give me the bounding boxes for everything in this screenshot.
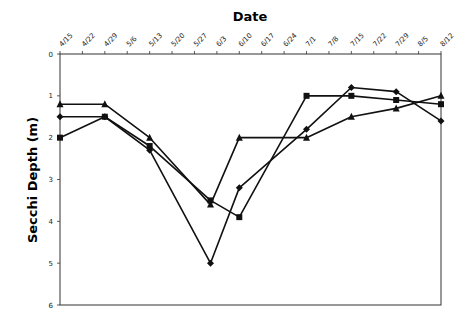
y-axis-label: Secchi Depth (m): [25, 117, 40, 243]
x-tick-label: 8/5: [416, 35, 430, 49]
y-tick-label: 2: [49, 134, 53, 142]
y-tick-label: 5: [49, 260, 53, 268]
diamond-marker: [57, 113, 64, 120]
x-tick-label: 7/15: [349, 32, 366, 49]
square-marker: [304, 93, 310, 99]
plot-frame: [60, 54, 441, 305]
triangle-marker: [146, 134, 153, 141]
square-marker: [207, 197, 213, 203]
y-tick-label: 4: [49, 218, 54, 226]
x-tick-label: 7/22: [372, 32, 389, 49]
y-tick-label: 3: [49, 176, 53, 184]
x-tick-label: 7/8: [327, 35, 341, 49]
x-axis-ticks: 4/154/224/295/65/135/205/276/36/106/176/…: [58, 31, 456, 54]
x-tick-label: 5/13: [147, 32, 164, 49]
square-marker: [393, 97, 399, 103]
y-axis-ticks: 0123456: [49, 51, 60, 310]
x-tick-label: 5/6: [125, 34, 139, 48]
plot-area: [60, 54, 441, 305]
x-tick-label: 8/12: [439, 32, 456, 49]
x-tick-label: 4/15: [58, 32, 75, 49]
data-series: [57, 84, 445, 267]
triangle-marker: [438, 92, 445, 99]
x-tick-label: 4/22: [80, 32, 97, 49]
square-marker: [57, 135, 63, 141]
square-marker: [236, 214, 242, 220]
y-tick-label: 0: [49, 51, 53, 59]
y-tick-label: 1: [49, 92, 53, 100]
diamond-marker: [207, 260, 214, 267]
y-tick-label: 6: [49, 302, 54, 310]
square-marker: [438, 101, 444, 107]
chart-title: Date: [233, 9, 268, 24]
x-tick-label: 6/10: [237, 32, 254, 49]
series-triangle: [57, 92, 445, 208]
x-tick-label: 6/24: [282, 31, 299, 48]
x-tick-label: 5/20: [170, 32, 187, 49]
x-tick-label: 7/29: [394, 32, 411, 49]
square-marker: [348, 93, 354, 99]
x-tick-label: 6/17: [259, 32, 276, 49]
secchi-depth-chart: Date Secchi Depth (m) 4/154/224/295/65/1…: [0, 0, 467, 323]
x-tick-label: 6/3: [215, 35, 229, 49]
x-tick-label: 7/1: [304, 35, 318, 49]
x-tick-label: 5/27: [192, 32, 209, 49]
x-tick-label: 4/29: [103, 32, 120, 49]
